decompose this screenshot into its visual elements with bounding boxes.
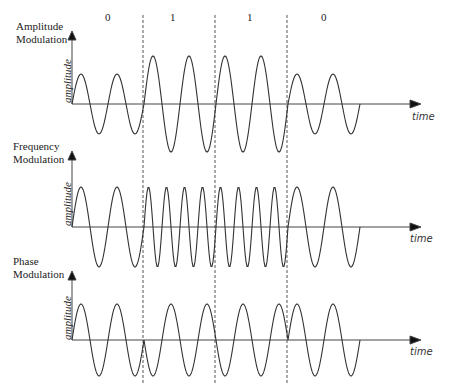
bit-label: 0 [321,11,327,23]
bit-label: 1 [170,11,176,23]
am-x-label: time [412,111,435,122]
pm-x-label: time [410,346,433,357]
fm-title: Frequency Modulation [13,140,64,166]
x-arrow-icon [410,336,421,344]
x-arrow-icon [410,100,421,108]
pm-y-label: amplitude [61,296,73,340]
x-arrow-icon [410,223,421,231]
fm-x-label: time [410,233,433,244]
am-axes [68,31,421,108]
pm-axes [68,271,421,344]
fm-y-label: amplitude [61,182,73,226]
bit-label: 1 [247,11,253,23]
y-arrow-icon [68,31,76,40]
pm-title: Phase Modulation [13,255,64,281]
am-title: Amplitude Modulation [16,20,67,46]
am-y-label: amplitude [61,59,73,103]
y-arrow-icon [68,271,76,280]
y-arrow-icon [68,151,76,160]
bit-label: 0 [105,11,111,23]
fm-axes [68,151,421,231]
